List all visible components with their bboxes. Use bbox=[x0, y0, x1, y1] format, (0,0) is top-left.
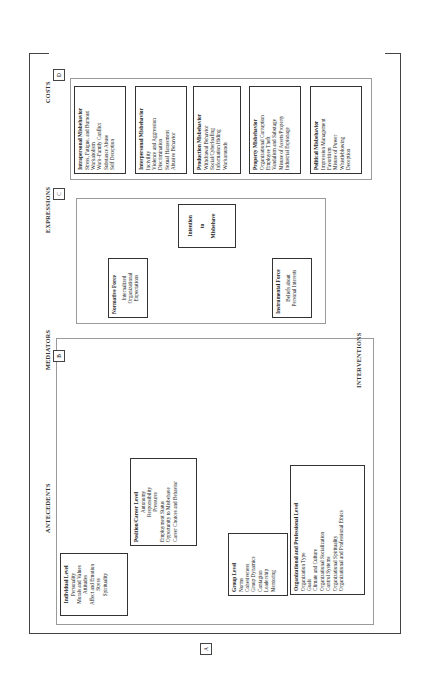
connector-arrows bbox=[0, 0, 443, 688]
misbehavior-model-diagram: ANTECEDENTS MEDIATORS EXPRESSIONS COSTS … bbox=[0, 0, 443, 688]
